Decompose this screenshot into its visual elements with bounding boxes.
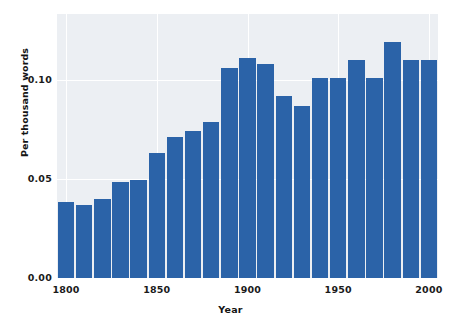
x-tick-label-0: 1800 <box>36 285 96 295</box>
x-tick-label-3: 1950 <box>308 285 368 295</box>
bar-1810 <box>76 205 92 278</box>
x-tick-label-2: 1900 <box>218 285 278 295</box>
bar-1870 <box>185 131 201 278</box>
y-tick-label-1: 0.05 <box>8 174 52 184</box>
bar-1960 <box>348 60 364 278</box>
bar-1990 <box>403 60 419 278</box>
bar-1820 <box>94 199 110 278</box>
bar-1860 <box>167 137 183 278</box>
bar-chart-figure: 0.000.050.10 Per thousand words 18001850… <box>0 0 461 335</box>
y-axis-title: Per thousand words <box>19 33 30 173</box>
bar-series <box>57 14 438 278</box>
bar-1910 <box>257 64 273 278</box>
bar-1840 <box>130 180 146 278</box>
bar-2000 <box>421 60 437 278</box>
plot-area <box>57 14 438 278</box>
x-tick-label-4: 2000 <box>399 285 459 295</box>
x-axis: 18001850190019502000 Year <box>0 278 461 335</box>
bar-1920 <box>276 96 292 278</box>
bar-1970 <box>366 78 382 278</box>
y-tick-label-2: 0.10 <box>8 75 52 85</box>
bar-1830 <box>112 182 128 278</box>
bar-1850 <box>149 153 165 278</box>
bar-1950 <box>330 78 346 278</box>
bar-1880 <box>203 122 219 278</box>
bar-1930 <box>294 106 310 278</box>
bar-1890 <box>221 68 237 278</box>
bar-1980 <box>384 42 400 278</box>
bar-1900 <box>239 58 255 278</box>
x-tick-label-1: 1850 <box>127 285 187 295</box>
bar-1800 <box>58 202 74 278</box>
bar-1940 <box>312 78 328 278</box>
x-axis-title: Year <box>0 304 461 315</box>
